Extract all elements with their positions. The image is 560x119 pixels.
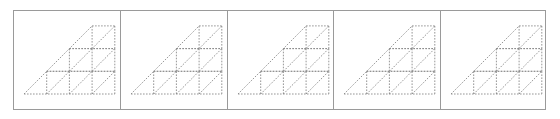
cell-diagonal-line (261, 71, 284, 94)
cell-diagonal-line (389, 49, 412, 72)
cell-diagonal-line (283, 49, 306, 72)
staircase-diagram (14, 11, 121, 109)
cell-diagonal-line (154, 71, 177, 94)
cell-diagonal-line (199, 26, 222, 49)
hypotenuse-line (238, 26, 306, 94)
cell-diagonal-line (47, 71, 70, 94)
cell-diagonal-line (496, 71, 519, 94)
cell-diagonal-line (519, 71, 542, 94)
hypotenuse-line (451, 26, 519, 94)
cell-diagonal-line (306, 71, 329, 94)
cell-diagonal-line (92, 26, 115, 49)
figure-strip (13, 10, 546, 110)
hypotenuse-line (344, 26, 412, 94)
panel-1 (14, 11, 121, 109)
panel-3 (228, 11, 334, 109)
cell-diagonal-line (412, 49, 435, 72)
hypotenuse-line (131, 26, 199, 94)
cell-diagonal-line (412, 71, 435, 94)
hypotenuse-line (24, 26, 92, 94)
cell-diagonal-line (176, 49, 199, 72)
panel-4 (334, 11, 441, 109)
panel-5 (441, 11, 546, 109)
cell-diagonal-line (283, 71, 306, 94)
staircase-diagram (228, 11, 334, 109)
cell-diagonal-line (389, 71, 412, 94)
staircase-diagram (334, 11, 441, 109)
cell-diagonal-line (92, 71, 115, 94)
cell-diagonal-line (92, 49, 115, 72)
staircase-diagram (441, 11, 546, 109)
cell-diagonal-line (69, 71, 92, 94)
cell-diagonal-line (306, 26, 329, 49)
cell-diagonal-line (176, 71, 199, 94)
cell-diagonal-line (412, 26, 435, 49)
cell-diagonal-line (199, 49, 222, 72)
cell-diagonal-line (519, 26, 542, 49)
cell-diagonal-line (69, 49, 92, 72)
cell-diagonal-line (367, 71, 390, 94)
staircase-diagram (121, 11, 228, 109)
cell-diagonal-line (306, 49, 329, 72)
cell-diagonal-line (496, 49, 519, 72)
cell-diagonal-line (519, 49, 542, 72)
cell-diagonal-line (199, 71, 222, 94)
panel-2 (121, 11, 228, 109)
cell-diagonal-line (474, 71, 497, 94)
